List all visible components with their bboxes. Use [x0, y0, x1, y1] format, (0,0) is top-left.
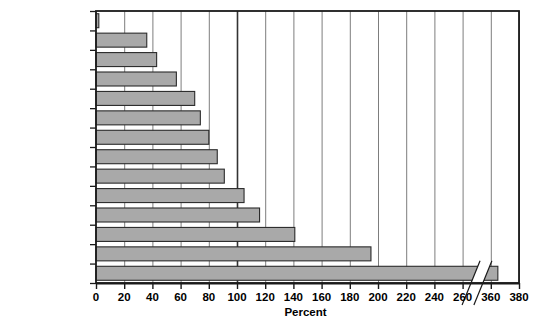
x-axis-title-text: Percent [284, 306, 326, 318]
x-tick-label: 380 [499, 292, 539, 304]
x-axis-title: Percent [0, 306, 539, 318]
bar-chart: CoffeeLeadOilAluminumCopperSugarZincRubb… [0, 0, 539, 331]
value-axis-labels: 0204060801001201401601802002202402603603… [0, 0, 539, 331]
